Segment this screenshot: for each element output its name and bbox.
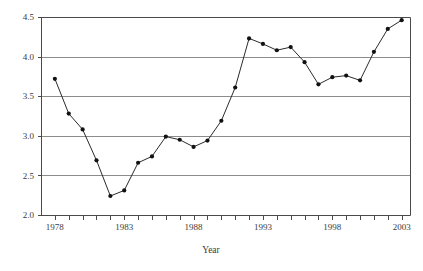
line-chart: 2.02.53.03.54.04.5 197819831988199319982… — [0, 0, 423, 271]
x-tick-label-1993: 1993 — [254, 222, 273, 232]
data-point-1991 — [233, 85, 237, 89]
data-point-1990 — [219, 119, 223, 123]
data-point-1998 — [330, 75, 334, 79]
chart-figure: 2.02.53.03.54.04.5 197819831988199319982… — [0, 0, 423, 271]
x-tick-label-1998: 1998 — [323, 222, 342, 232]
data-point-1985 — [150, 154, 154, 158]
x-tick-label-1983: 1983 — [115, 222, 134, 232]
data-point-2003 — [400, 18, 404, 22]
y-tick-label-2.0: 2.0 — [23, 210, 35, 220]
data-point-1995 — [289, 45, 293, 49]
data-point-1997 — [316, 82, 320, 86]
data-point-1989 — [205, 138, 209, 142]
data-point-1986 — [164, 134, 168, 138]
x-tick-label-2003: 2003 — [393, 222, 412, 232]
x-axis-title: Year — [202, 245, 220, 255]
data-point-1987 — [178, 138, 182, 142]
data-point-1988 — [191, 145, 195, 149]
x-tick-label-1988: 1988 — [185, 222, 204, 232]
data-point-1984 — [136, 161, 140, 165]
x-tick-label-1978: 1978 — [46, 222, 65, 232]
data-point-1996 — [302, 60, 306, 64]
data-point-1982 — [108, 194, 112, 198]
data-point-1999 — [344, 74, 348, 78]
y-tick-label-3.0: 3.0 — [23, 131, 35, 141]
data-point-1979 — [67, 112, 71, 116]
y-tick-label-2.5: 2.5 — [23, 171, 35, 181]
data-point-2002 — [386, 27, 390, 31]
y-tick-label-3.5: 3.5 — [23, 91, 35, 101]
data-point-1992 — [247, 36, 251, 40]
data-point-1994 — [275, 48, 279, 52]
data-point-2001 — [372, 50, 376, 54]
data-point-1993 — [261, 42, 265, 46]
data-point-1980 — [81, 127, 85, 131]
data-point-1978 — [53, 77, 57, 81]
data-point-1981 — [94, 158, 98, 162]
y-tick-label-4.5: 4.5 — [23, 12, 35, 22]
data-point-1983 — [122, 188, 126, 192]
y-tick-label-4.0: 4.0 — [23, 52, 35, 62]
data-point-2000 — [358, 78, 362, 82]
